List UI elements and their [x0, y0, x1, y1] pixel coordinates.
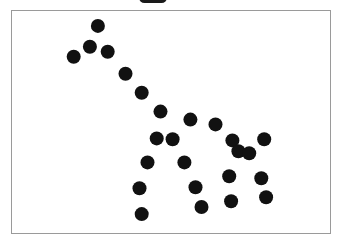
- data-point: [141, 155, 155, 169]
- data-point: [101, 45, 115, 59]
- scatter-plot: [12, 11, 330, 233]
- data-point: [67, 50, 81, 64]
- data-point: [177, 155, 191, 169]
- data-point: [222, 169, 236, 183]
- data-point: [135, 207, 149, 221]
- data-point: [254, 171, 268, 185]
- data-point: [135, 86, 149, 100]
- data-point: [224, 194, 238, 208]
- chart-stage: [0, 0, 342, 244]
- data-point: [183, 113, 197, 127]
- data-point: [259, 190, 273, 204]
- data-point: [91, 19, 105, 33]
- data-point: [166, 132, 180, 146]
- data-point: [150, 131, 164, 145]
- data-point: [119, 67, 133, 81]
- data-point: [133, 181, 147, 195]
- data-point: [257, 132, 271, 146]
- data-point: [195, 200, 209, 214]
- data-point: [189, 180, 203, 194]
- plot-area: [11, 10, 331, 234]
- data-point: [154, 105, 168, 119]
- data-point: [83, 40, 97, 54]
- data-point: [242, 146, 256, 160]
- legend-marker: [139, 0, 167, 3]
- data-point: [209, 117, 223, 131]
